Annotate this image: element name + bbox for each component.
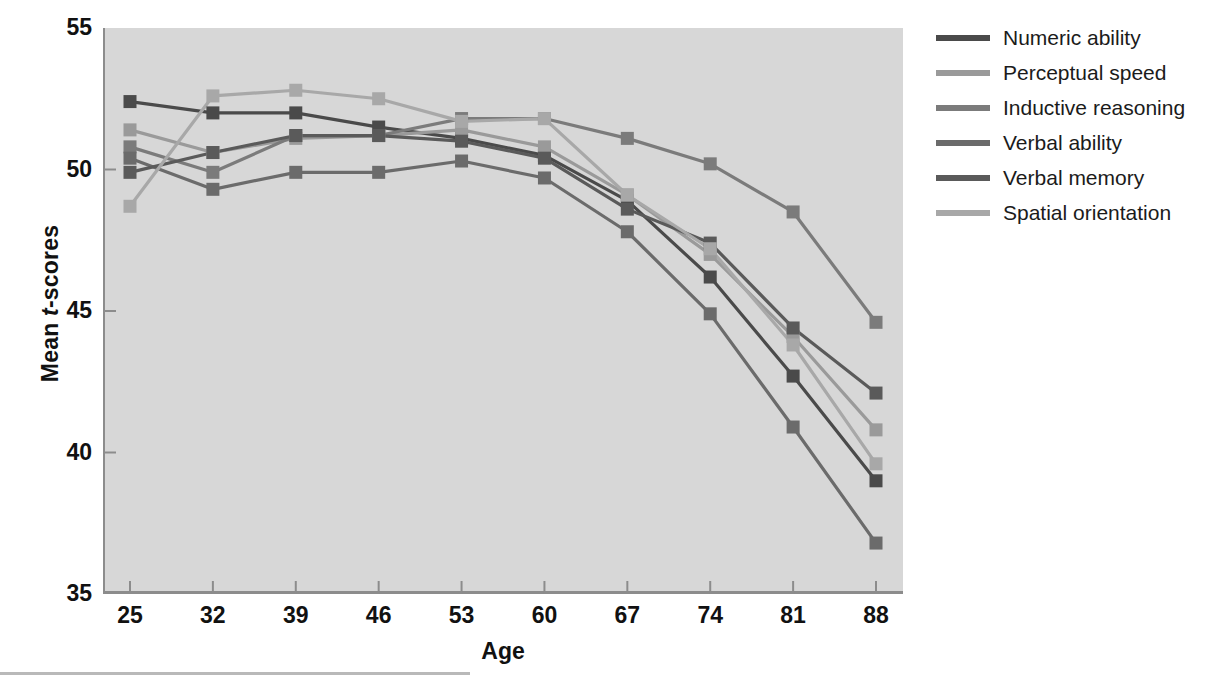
series-marker [206,183,219,196]
series-marker [124,200,137,213]
series-marker [206,106,219,119]
series-marker [621,203,634,216]
x-tick-label: 60 [514,604,574,627]
x-tick-label: 46 [349,604,409,627]
series-marker [787,338,800,351]
series-marker [870,474,883,487]
plot-area [103,28,903,594]
y-tick-label: 45 [46,299,92,322]
series-marker [372,166,385,179]
series-marker [289,84,302,97]
y-axis-tick-labels: 5550454035 [40,0,92,689]
series-marker [787,421,800,434]
series-marker [704,157,717,170]
series-marker [621,132,634,145]
series-marker [704,242,717,255]
series-marker [124,152,137,165]
x-tick-label: 67 [597,604,657,627]
legend-item[interactable]: Spatial orientation [936,195,1198,230]
series-marker [704,271,717,284]
legend-label: Verbal memory [1003,167,1144,188]
series-marker [206,146,219,159]
series-marker [621,188,634,201]
legend-item[interactable]: Numeric ability [936,20,1198,55]
series-marker [289,166,302,179]
series-marker [455,135,468,148]
series-marker [870,457,883,470]
x-tick-label: 74 [680,604,740,627]
legend-swatch-icon [936,175,990,181]
series-marker [787,205,800,218]
series-marker [206,89,219,102]
x-axis-tick-labels: 25323946536067748188 [0,604,1206,638]
legend-item[interactable]: Verbal ability [936,125,1198,160]
series-marker [124,140,137,153]
y-tick-label: 35 [46,582,92,605]
legend-swatch-icon [936,140,990,146]
x-axis-title: Age [103,638,903,665]
legend-label: Verbal ability [1003,132,1122,153]
series-marker [289,106,302,119]
legend-swatch-icon [936,210,990,216]
series-marker [787,370,800,383]
legend-item[interactable]: Perceptual speed [936,55,1198,90]
series-marker [870,316,883,329]
chart-legend: Numeric abilityPerceptual speedInductive… [936,20,1198,230]
series-marker [870,387,883,400]
series-marker [455,155,468,168]
y-tick-label: 50 [46,158,92,181]
legend-swatch-icon [936,35,990,41]
series-marker [124,166,137,179]
y-tick-label: 55 [46,16,92,39]
legend-label: Inductive reasoning [1003,97,1185,118]
y-tick-label: 40 [46,441,92,464]
series-marker [787,321,800,334]
series-marker [124,123,137,136]
x-tick-label: 39 [266,604,326,627]
legend-label: Numeric ability [1003,27,1141,48]
series-marker [372,92,385,105]
x-tick-label: 25 [100,604,160,627]
series-marker [621,225,634,238]
series-marker [538,140,551,153]
series-marker [538,171,551,184]
legend-item[interactable]: Verbal memory [936,160,1198,195]
legend-label: Spatial orientation [1003,202,1171,223]
x-tick-label: 53 [432,604,492,627]
legend-swatch-icon [936,105,990,111]
legend-item[interactable]: Inductive reasoning [936,90,1198,125]
series-marker [870,423,883,436]
series-marker [704,307,717,320]
x-tick-label: 32 [183,604,243,627]
series-marker [206,166,219,179]
x-tick-label: 81 [763,604,823,627]
plot-svg [103,28,903,594]
page-rule [0,672,470,675]
series-marker [538,112,551,125]
series-marker [372,129,385,142]
series-marker [538,152,551,165]
series-marker [289,129,302,142]
series-marker [870,537,883,550]
series-marker [124,95,137,108]
legend-label: Perceptual speed [1003,62,1166,83]
x-tick-label: 88 [846,604,906,627]
legend-swatch-icon [936,70,990,76]
series-marker [455,115,468,128]
chart-figure: Mean t-scores 5550454035 253239465360677… [0,0,1206,689]
